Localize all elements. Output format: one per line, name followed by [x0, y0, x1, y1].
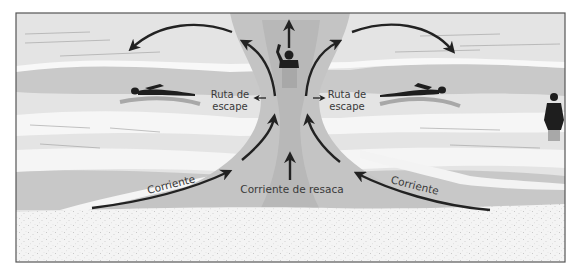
- beach-sand: [16, 204, 565, 262]
- label-rip-current: Corriente de resaca: [240, 183, 343, 195]
- person-legs-underwater: [548, 130, 560, 141]
- label-escape-right-line1: Ruta de: [328, 89, 367, 100]
- label-escape-left-line1: Ruta de: [211, 89, 250, 100]
- swimmer-center-body-underwater: [282, 68, 297, 88]
- label-escape-right-line2: escape: [329, 101, 365, 112]
- label-escape-left-line2: escape: [212, 101, 248, 112]
- rip-current-diagram: Ruta de escape Ruta de escape Corriente …: [0, 0, 583, 274]
